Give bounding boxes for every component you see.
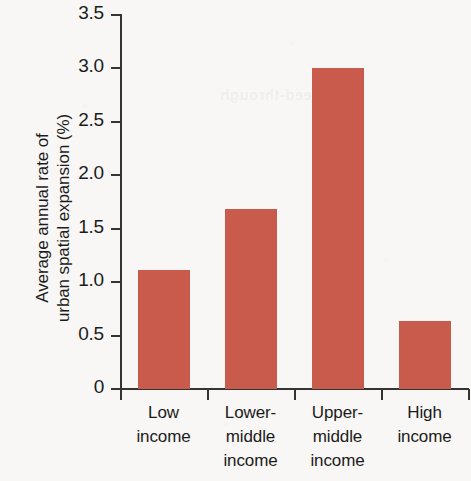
x-axis-category-label-line: Low xyxy=(120,401,207,425)
x-axis-category-label: Upper-middleincome xyxy=(294,401,381,473)
y-axis-tick xyxy=(111,67,121,69)
x-axis-tick xyxy=(207,389,209,400)
x-axis-category-label-line: income xyxy=(381,425,468,449)
x-axis-tick xyxy=(120,389,122,400)
x-axis-category-label-line: Lower- xyxy=(207,401,294,425)
y-axis-tick-label: 0 xyxy=(42,376,104,398)
bar xyxy=(225,209,277,389)
x-axis-category-label-line: income xyxy=(294,449,381,473)
y-axis-tick-labels: 3.53.02.52.01.51.00.50 xyxy=(38,0,104,481)
x-axis-category-label: Lower-middleincome xyxy=(207,401,294,473)
bar xyxy=(312,68,364,389)
x-axis-category-label: Highincome xyxy=(381,401,468,449)
y-axis-tick xyxy=(111,281,121,283)
x-axis-category-label-line: High xyxy=(381,401,468,425)
x-axis-category-label-line: Upper- xyxy=(294,401,381,425)
x-axis-category-label-line: income xyxy=(207,449,294,473)
y-axis-tick-label: 2.5 xyxy=(42,109,104,131)
x-axis-category-label-line: middle xyxy=(294,425,381,449)
x-axis-tick xyxy=(381,389,383,400)
x-axis-category-label-line: middle xyxy=(207,425,294,449)
x-axis-category-label-line: income xyxy=(120,425,207,449)
y-axis-tick xyxy=(111,121,121,123)
y-axis-tick xyxy=(111,228,121,230)
bar xyxy=(399,321,451,389)
y-axis-tick-label: 3.5 xyxy=(42,2,104,24)
y-axis-tick xyxy=(111,14,121,16)
x-axis-tick xyxy=(468,389,470,400)
scan-bleedthrough-artifact: bleed-through xyxy=(176,86,326,108)
y-axis-tick-label: 1.5 xyxy=(42,216,104,238)
bar-chart-figure: bleed-through Average annual rate of urb… xyxy=(0,0,471,481)
y-axis-tick xyxy=(111,174,121,176)
y-axis-tick-label: 0.5 xyxy=(42,323,104,345)
y-axis-tick-label: 3.0 xyxy=(42,55,104,77)
x-axis-tick xyxy=(294,389,296,400)
y-axis-tick xyxy=(111,335,121,337)
y-axis-tick-label: 1.0 xyxy=(42,269,104,291)
y-axis-tick-label: 2.0 xyxy=(42,162,104,184)
bar xyxy=(138,270,190,389)
x-axis-category-label: Lowincome xyxy=(120,401,207,449)
